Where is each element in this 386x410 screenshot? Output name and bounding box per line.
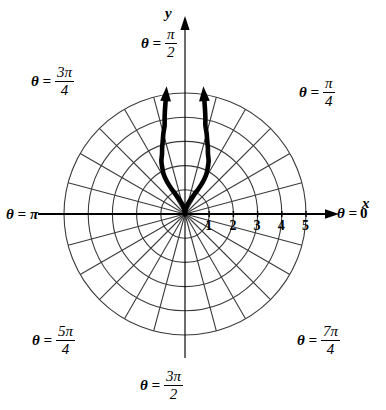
x-tick-label-4: 4 bbox=[278, 218, 285, 234]
y-axis-label: y bbox=[165, 6, 172, 21]
angle-label-theta-5pi-4: θ = 5π 4 bbox=[32, 324, 75, 359]
grid-spoke-105deg bbox=[154, 97, 185, 214]
grid-spoke-255deg bbox=[154, 214, 185, 331]
theta-0-eq: θ = bbox=[337, 205, 357, 221]
theta-5pi-4-numerator: 5π bbox=[56, 323, 75, 341]
theta-pi-4-denominator: 4 bbox=[323, 93, 335, 110]
x-tick-label-2: 2 bbox=[229, 218, 236, 234]
angle-label-theta-0: θ =0 bbox=[337, 206, 368, 221]
y-axis-arrowhead bbox=[180, 16, 189, 30]
curve-left-branch bbox=[161, 94, 185, 214]
theta-5pi-4-fraction: 5π 4 bbox=[56, 323, 75, 358]
theta-pi-4-eq: θ = bbox=[299, 84, 319, 100]
theta-pi-4-numerator: π bbox=[323, 75, 335, 93]
theta-3pi-2-denominator: 2 bbox=[164, 386, 183, 403]
angle-label-theta-pi: θ =π bbox=[6, 207, 38, 222]
grid-spoke-300deg bbox=[185, 214, 246, 319]
grid-spoke-15deg bbox=[185, 183, 302, 214]
angle-label-theta-3pi-2: θ = 3π 2 bbox=[140, 369, 183, 404]
grid-spoke-210deg bbox=[80, 214, 185, 275]
theta-7pi-4-numerator: 7π bbox=[321, 323, 340, 341]
theta-0-value: 0 bbox=[357, 205, 368, 221]
grid-spoke-165deg bbox=[68, 183, 185, 214]
grid-spoke-240deg bbox=[125, 214, 186, 319]
angle-label-theta-pi-4: θ = π 4 bbox=[299, 76, 335, 111]
grid-spoke-225deg bbox=[99, 214, 185, 300]
theta-pi-value: π bbox=[26, 206, 38, 222]
angle-label-theta-3pi-4: θ = 3π 4 bbox=[31, 65, 74, 100]
angle-label-theta-7pi-4: θ = 7π 4 bbox=[297, 324, 340, 359]
theta-5pi-4-eq: θ = bbox=[32, 332, 52, 348]
theta-3pi-4-fraction: 3π 4 bbox=[55, 64, 74, 99]
polar-chart-figure: x y θ =0 θ = π 4 θ = π 2 θ = 3π 4 θ =π θ… bbox=[0, 0, 386, 410]
theta-pi-2-fraction: π 2 bbox=[165, 26, 177, 61]
curve-right-branch bbox=[185, 94, 209, 214]
grid-spoke-330deg bbox=[185, 214, 290, 275]
theta-3pi-4-denominator: 4 bbox=[55, 82, 74, 99]
grid-spoke-45deg bbox=[185, 128, 271, 214]
theta-pi-2-numerator: π bbox=[165, 26, 177, 44]
theta-pi-2-eq: θ = bbox=[141, 35, 161, 51]
angle-label-theta-pi-2: θ = π 2 bbox=[141, 27, 177, 62]
x-tick-label-5: 5 bbox=[302, 218, 309, 234]
theta-7pi-4-fraction: 7π 4 bbox=[321, 323, 340, 358]
theta-3pi-2-fraction: 3π 2 bbox=[164, 368, 183, 403]
grid-spoke-135deg bbox=[99, 128, 185, 214]
theta-7pi-4-eq: θ = bbox=[297, 332, 317, 348]
theta-pi-eq: θ = bbox=[6, 206, 26, 222]
grid-spoke-195deg bbox=[68, 214, 185, 245]
theta-pi-4-fraction: π 4 bbox=[323, 75, 335, 110]
x-tick-label-3: 3 bbox=[254, 218, 261, 234]
theta-7pi-4-denominator: 4 bbox=[321, 341, 340, 358]
x-tick-label-1: 1 bbox=[205, 218, 212, 234]
grid-spoke-75deg bbox=[185, 97, 216, 214]
theta-3pi-2-numerator: 3π bbox=[164, 368, 183, 386]
theta-3pi-4-eq: θ = bbox=[31, 73, 51, 89]
theta-3pi-4-numerator: 3π bbox=[55, 64, 74, 82]
theta-pi-2-denominator: 2 bbox=[165, 44, 177, 61]
theta-3pi-2-eq: θ = bbox=[140, 377, 160, 393]
theta-5pi-4-denominator: 4 bbox=[56, 341, 75, 358]
